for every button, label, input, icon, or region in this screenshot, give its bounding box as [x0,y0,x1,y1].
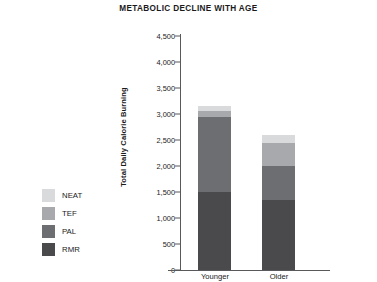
x-axis-label-older: Older [244,272,314,281]
legend-swatch-pal [42,225,55,238]
legend-item-tef[interactable]: TEF [42,204,82,222]
legend-label-neat: NEAT [62,191,82,200]
y-axis-title-text: Total Daily Calorie Burning [119,72,128,202]
bar-segment-pal-younger[interactable] [198,117,231,192]
y-tick-label-3000: 3,000 [140,110,175,119]
y-tick-label-3500: 3,500 [140,84,175,93]
legend-swatch-neat [42,189,55,202]
legend-label-rmr: RMR [62,245,80,254]
x-axis-label-younger: Younger [180,272,250,281]
bar-segment-neat-older[interactable] [262,135,295,143]
bar-segment-rmr-younger[interactable] [198,192,231,270]
legend-label-tef: TEF [62,209,77,218]
y-axis-line [180,34,181,271]
legend-label-pal: PAL [62,227,76,236]
y-tick-label-4500: 4,500 [140,32,175,41]
x-axis-line [168,270,330,271]
bar-segment-tef-older[interactable] [262,143,295,166]
y-axis-tick-labels: 4,5004,0003,5003,0002,5002,0001,5001,000… [140,0,175,282]
bar-segment-pal-older[interactable] [262,166,295,200]
chart-legend: NEATTEFPALRMR [42,186,82,258]
y-tick-label-1000: 1,000 [140,214,175,223]
y-axis-title: Total Daily Calorie Burning [119,0,128,72]
bar-older[interactable] [262,135,295,270]
y-tick-label-2000: 2,000 [140,162,175,171]
bar-segment-rmr-older[interactable] [262,200,295,270]
bar-younger[interactable] [198,106,231,270]
y-tick-label-2500: 2,500 [140,136,175,145]
chart-container: METABOLIC DECLINE WITH AGE Total Daily C… [0,0,377,282]
y-tick-label-500: 500 [140,240,175,249]
legend-swatch-rmr [42,243,55,256]
chart-title: METABOLIC DECLINE WITH AGE [0,4,377,13]
y-tick-label-4000: 4,000 [140,58,175,67]
y-tick-label-1500: 1,500 [140,188,175,197]
legend-item-neat[interactable]: NEAT [42,186,82,204]
legend-item-rmr[interactable]: RMR [42,240,82,258]
legend-swatch-tef [42,207,55,220]
legend-item-pal[interactable]: PAL [42,222,82,240]
